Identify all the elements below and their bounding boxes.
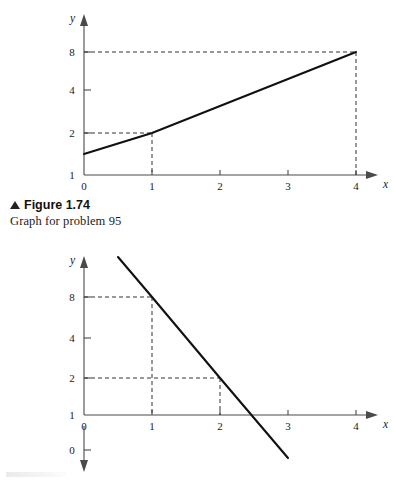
- data-series-top: [84, 52, 356, 154]
- y-tick-label: 2: [69, 372, 75, 384]
- figure-number: Figure 1.74: [24, 198, 90, 213]
- up-triangle-icon: [10, 201, 20, 209]
- x-tick-label: 1: [149, 420, 155, 432]
- y-tick-label: 8: [69, 46, 75, 58]
- y-tick-label: 1: [69, 409, 75, 421]
- y-tick-label: 2: [69, 127, 75, 139]
- x-tick-label: 0: [81, 180, 87, 192]
- figure-caption: Figure 1.74 Graph for problem 95: [10, 198, 270, 230]
- chart-bottom: y 8 4 2 1 0 x 0 1 2 3: [0, 250, 396, 481]
- guide-lines-top: [84, 52, 356, 175]
- y-axis-bottom: y: [69, 254, 88, 472]
- x-tick-label: 1: [149, 180, 155, 192]
- x-tick-label: 2: [217, 420, 223, 432]
- y-axis-label-top: y: [69, 12, 76, 25]
- x-axis-label-top: x: [382, 178, 389, 190]
- guide-lines-bottom: [84, 297, 220, 415]
- y-tick-label: 8: [69, 291, 75, 303]
- y-tick-label: 1: [69, 169, 75, 181]
- x-tick-label: 0: [81, 420, 87, 432]
- x-tick-label: 3: [285, 420, 291, 432]
- x-axis-bottom: x: [84, 411, 389, 430]
- chart-top: y 8 4 2 1 x 0 1 2 3 4: [0, 0, 396, 198]
- figure-caption-subtitle: Graph for problem 95: [10, 214, 270, 229]
- x-tick-label: 2: [217, 180, 223, 192]
- y-tick-label: 0: [69, 444, 75, 456]
- x-tick-label: 4: [353, 420, 359, 432]
- y-tick-label: 4: [69, 332, 75, 344]
- data-series-bottom: [118, 257, 288, 458]
- figure-container: y 8 4 2 1 x 0 1 2 3 4: [0, 0, 396, 481]
- x-axis-top: x: [84, 171, 389, 190]
- x-tick-label: 4: [353, 180, 359, 192]
- scan-artifact: [6, 472, 66, 477]
- y-ticks-bottom: 8 4 2 1 0: [69, 291, 91, 456]
- x-ticks-top: 0 1 2 3 4: [81, 170, 359, 192]
- x-axis-label-bottom: x: [382, 418, 389, 430]
- y-tick-label: 4: [69, 84, 75, 96]
- y-ticks-top: 8 4 2 1: [69, 46, 91, 181]
- y-axis-label-bottom: y: [69, 254, 76, 267]
- x-tick-label: 3: [285, 180, 291, 192]
- figure-caption-title: Figure 1.74: [10, 198, 270, 213]
